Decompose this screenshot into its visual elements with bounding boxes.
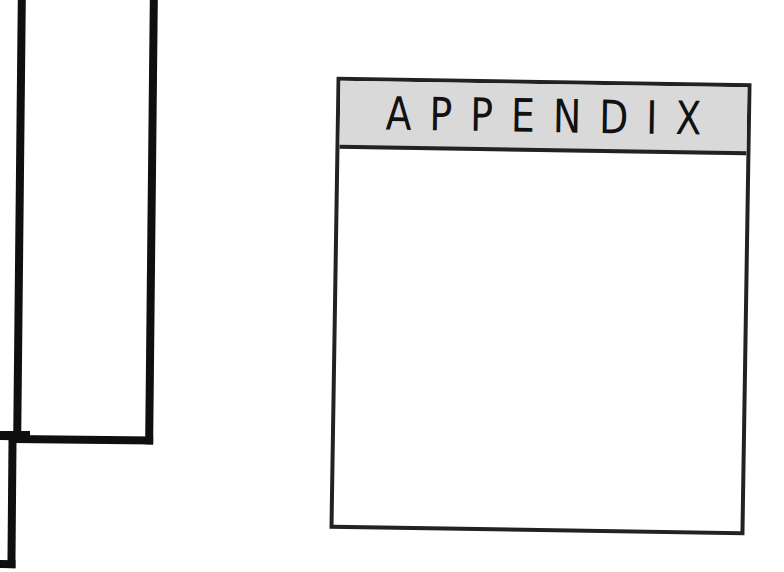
decorative-frame-bottom-left [0,432,17,568]
decorative-frame-left [13,0,158,444]
appendix-header: APPENDIX [339,81,747,155]
appendix-title: APPENDIX [367,86,720,146]
appendix-body [334,149,747,531]
appendix-box: APPENDIX [329,77,751,535]
